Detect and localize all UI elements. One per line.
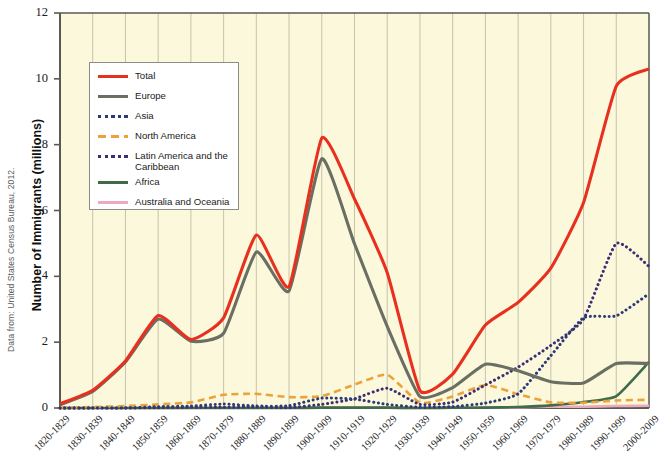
legend-item[interactable]: Total bbox=[98, 71, 155, 83]
legend-swatch-icon bbox=[98, 111, 128, 123]
legend-label: Africa bbox=[135, 177, 160, 188]
legend-label: Latin America and the Caribbean bbox=[135, 151, 238, 172]
legend-label: North America bbox=[135, 131, 196, 142]
legend-label: Total bbox=[135, 71, 155, 82]
legend-item[interactable]: Latin America and the Caribbean bbox=[98, 151, 238, 172]
legend-swatch-icon bbox=[98, 197, 128, 209]
legend-swatch-icon bbox=[98, 177, 128, 189]
legend-swatch-icon bbox=[98, 91, 128, 103]
legend-label: Europe bbox=[135, 91, 166, 102]
legend-item[interactable]: Australia and Oceania bbox=[98, 197, 229, 209]
legend-swatch-icon bbox=[98, 71, 128, 83]
legend-swatch-icon bbox=[98, 151, 128, 163]
legend-item[interactable]: Africa bbox=[98, 177, 160, 189]
legend-item[interactable]: North America bbox=[98, 131, 196, 143]
legend-label: Asia bbox=[135, 111, 154, 122]
legend-item[interactable]: Europe bbox=[98, 91, 166, 103]
chart-legend: TotalEuropeAsiaNorth AmericaLatin Americ… bbox=[89, 62, 239, 210]
immigration-line-chart: Data from: United States Census Bureau, … bbox=[0, 0, 668, 461]
legend-label: Australia and Oceania bbox=[135, 197, 229, 208]
legend-swatch-icon bbox=[98, 131, 128, 143]
legend-item[interactable]: Asia bbox=[98, 111, 154, 123]
